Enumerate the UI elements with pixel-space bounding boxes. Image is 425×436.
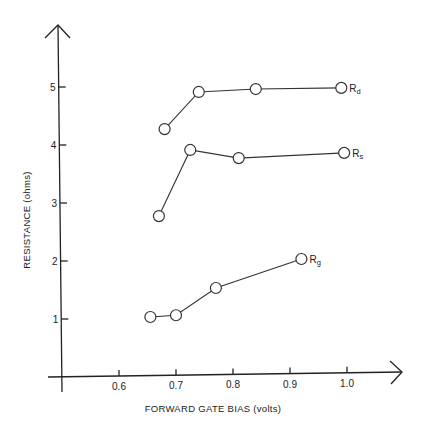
x-tick-label: 1.0 — [340, 378, 354, 389]
series-rg: Rg — [145, 254, 321, 323]
series-label: Rg — [309, 254, 320, 267]
series-rs: Rs — [153, 144, 363, 221]
data-point-marker — [336, 82, 347, 93]
axes — [45, 25, 402, 392]
x-ticks: 0.60.70.80.91.0 — [112, 367, 354, 392]
y-tick-label: 1 — [53, 314, 59, 325]
x-axis-line — [48, 372, 402, 377]
data-point-marker — [339, 147, 350, 158]
data-point-marker — [193, 86, 204, 97]
data-point-marker — [145, 312, 156, 323]
y-axis-label: RESISTANCE (ohms) — [21, 171, 32, 268]
data-point-marker — [159, 124, 170, 135]
x-tick-label: 0.6 — [112, 381, 126, 392]
series-line — [159, 150, 344, 216]
y-tick-label: 4 — [51, 140, 57, 151]
x-tick-label: 0.8 — [226, 379, 240, 390]
y-axis-line — [58, 25, 62, 392]
data-point-marker — [233, 153, 244, 164]
series-rd: Rd — [159, 82, 361, 134]
data-point-marker — [153, 211, 164, 222]
series-group: RdRsRg — [145, 82, 364, 322]
x-tick-label: 0.9 — [283, 379, 297, 390]
x-axis-label: FORWARD GATE BIAS (volts) — [145, 403, 282, 414]
y-tick-label: 5 — [50, 82, 56, 93]
x-tick-label: 0.7 — [169, 380, 183, 391]
resistance-vs-gate-bias-chart: 12345 0.60.70.80.91.0 RdRsRg FORWARD GAT… — [0, 0, 425, 436]
data-point-marker — [296, 254, 307, 265]
y-tick-label: 2 — [52, 256, 58, 267]
series-line — [150, 259, 301, 317]
series-label: Rs — [352, 148, 363, 161]
data-point-marker — [171, 310, 182, 321]
data-point-marker — [250, 84, 261, 95]
data-point-marker — [185, 144, 196, 155]
data-point-marker — [210, 283, 221, 294]
y-tick-label: 3 — [51, 198, 57, 209]
series-label: Rd — [349, 83, 360, 96]
